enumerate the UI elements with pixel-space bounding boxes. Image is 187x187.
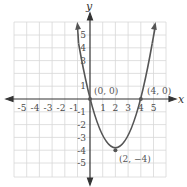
- svg-text:1: 1: [80, 81, 86, 91]
- svg-text:2: 2: [113, 103, 119, 113]
- parabola-curve: [75, 22, 157, 148]
- parabola-chart: x y -5 -4 -3 -2 -1 1 2 3 4 5 5 4 3 1 -1 …: [0, 0, 187, 187]
- point-x-intercept: [139, 97, 143, 101]
- svg-text:-4: -4: [31, 103, 40, 113]
- svg-text:-3: -3: [77, 133, 86, 143]
- svg-text:1: 1: [100, 103, 106, 113]
- svg-text:3: 3: [125, 103, 131, 113]
- label-x-intercept: (4, 0): [147, 86, 171, 96]
- svg-text:4: 4: [80, 43, 86, 53]
- svg-text:5: 5: [80, 30, 86, 40]
- svg-text:-2: -2: [77, 120, 86, 130]
- svg-text:5: 5: [151, 103, 157, 113]
- svg-text:-2: -2: [57, 103, 66, 113]
- point-vertex: [113, 148, 117, 152]
- point-origin: [88, 97, 92, 101]
- y-axis-label: y: [85, 0, 93, 13]
- svg-text:-3: -3: [44, 103, 53, 113]
- label-origin: (0, 0): [94, 86, 118, 96]
- svg-text:-5: -5: [77, 158, 86, 168]
- svg-text:-4: -4: [77, 146, 86, 156]
- svg-text:-1: -1: [77, 107, 86, 117]
- svg-text:-5: -5: [18, 103, 27, 113]
- x-axis-label: x: [178, 93, 185, 106]
- label-vertex: (2, −4): [119, 154, 151, 164]
